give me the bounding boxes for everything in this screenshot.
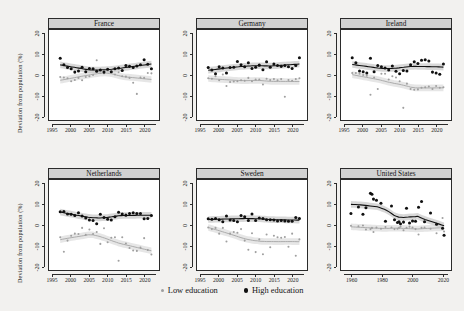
data-point: [92, 219, 95, 222]
data-point: [128, 65, 131, 68]
y-tick-text: -20: [33, 263, 40, 272]
y-axis-line: [336, 33, 337, 117]
data-point: [135, 64, 138, 67]
data-point: [117, 211, 120, 214]
data-point: [280, 78, 282, 80]
data-point: [146, 217, 149, 220]
data-point: [411, 219, 414, 222]
y-tick-mark: [42, 54, 45, 55]
data-point: [379, 202, 382, 205]
data-point: [81, 227, 83, 229]
data-point: [443, 231, 445, 233]
y-tick-mark: [190, 246, 193, 247]
y-tick-text: -10: [325, 92, 332, 101]
x-tick-label: 2015: [413, 127, 424, 133]
data-point: [261, 68, 264, 71]
data-point: [222, 227, 224, 229]
data-point: [150, 214, 153, 217]
data-point: [258, 216, 261, 219]
data-point: [373, 70, 376, 73]
data-point: [207, 66, 210, 69]
panel-france: France: [48, 18, 160, 121]
data-point: [428, 85, 430, 87]
data-point: [417, 233, 419, 235]
y-axis-label: Deviation from population (%): [16, 203, 23, 283]
data-point: [247, 61, 250, 64]
data-point: [121, 75, 123, 77]
data-point: [229, 233, 231, 235]
y-tick-label: 0: [180, 222, 189, 229]
data-point: [384, 220, 387, 223]
x-tick-label: 2020: [287, 127, 298, 133]
data-point: [250, 212, 253, 215]
data-point: [362, 224, 364, 226]
data-point: [143, 217, 146, 220]
data-point: [77, 69, 80, 72]
plot-svg: [49, 180, 159, 270]
data-point: [442, 217, 444, 219]
y-axis-line: [192, 33, 193, 117]
data-point: [129, 77, 131, 79]
data-point: [443, 234, 446, 237]
data-point: [143, 77, 145, 79]
data-point: [364, 206, 367, 209]
data-point: [376, 64, 379, 67]
data-point: [121, 236, 123, 238]
x-tick-label: 2020: [438, 277, 449, 283]
y-tick-label: 10: [180, 51, 189, 58]
data-point: [429, 212, 432, 215]
y-tick-mark: [190, 117, 193, 118]
data-point: [232, 66, 235, 69]
data-point: [391, 75, 393, 77]
data-point: [99, 213, 102, 216]
data-point: [225, 71, 228, 74]
data-point: [233, 81, 235, 83]
data-point: [121, 69, 124, 72]
y-tick-mark: [334, 225, 337, 226]
data-point: [225, 214, 228, 217]
data-point: [85, 234, 87, 236]
data-point: [377, 88, 379, 90]
x-tick-label: 2005: [84, 127, 95, 133]
y-tick-text: 0: [181, 71, 188, 80]
y-tick-text: 20: [33, 29, 40, 38]
legend-label: Low education: [168, 286, 218, 295]
y-tick-text: 10: [325, 50, 332, 59]
data-point: [358, 73, 360, 75]
data-point: [416, 62, 419, 65]
y-tick-mark: [190, 225, 193, 226]
y-tick-mark: [334, 267, 337, 268]
y-tick-text: 20: [325, 29, 332, 38]
data-point: [225, 85, 227, 87]
data-point: [99, 69, 102, 72]
data-point: [240, 214, 243, 217]
y-tick-label: 20: [32, 30, 41, 37]
data-point: [250, 67, 253, 70]
plot-area: [196, 179, 308, 271]
data-point: [240, 63, 243, 66]
y-tick-text: -10: [181, 92, 188, 101]
data-point: [124, 64, 127, 67]
data-point: [365, 71, 368, 74]
plot-svg: [49, 30, 159, 120]
data-point: [132, 211, 135, 214]
data-point: [390, 226, 392, 228]
y-tick-text: -20: [181, 263, 188, 272]
faceted-scatter-figure: Deviation from population (%)Deviation f…: [0, 0, 464, 311]
y-tick-mark: [190, 183, 193, 184]
plot-svg: [197, 30, 307, 120]
plot-area: [340, 29, 452, 121]
data-point: [380, 73, 382, 75]
data-point: [399, 226, 401, 228]
data-point: [362, 74, 364, 76]
data-point: [417, 206, 420, 209]
data-point: [420, 200, 423, 203]
data-point: [110, 219, 113, 222]
y-tick-text: 10: [181, 50, 188, 59]
data-point: [375, 226, 377, 228]
data-point: [406, 83, 408, 85]
data-point: [103, 227, 105, 229]
y-tick-mark: [334, 183, 337, 184]
data-point: [92, 67, 95, 70]
y-tick-mark: [42, 33, 45, 34]
